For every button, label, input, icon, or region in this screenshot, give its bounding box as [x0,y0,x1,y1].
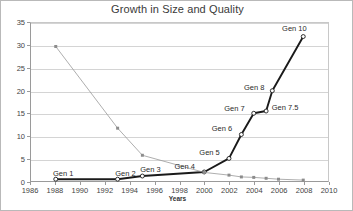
x-axis-tick-mark [105,182,106,185]
data-point-marker [252,176,255,179]
y-axis-tick-label: 35 [1,18,25,27]
y-axis-tick-mark [27,91,30,92]
series-line-generations [56,37,304,180]
plot-area [30,22,329,182]
y-axis-tick-mark [27,22,30,23]
data-point-marker [239,133,243,137]
data-point-label: Gen 4 [174,162,194,171]
x-axis-tick-mark [30,182,31,185]
data-point-marker [141,154,144,157]
data-point-label: Gen 7 [224,104,244,113]
data-point-marker [140,174,144,178]
y-axis-tick-mark [27,159,30,160]
y-axis-tick-label: 20 [1,86,25,95]
y-axis-tick-label: 10 [1,132,25,141]
data-point-marker [54,45,57,48]
y-axis-tick-label: 25 [1,63,25,72]
y-axis-tick-mark [27,136,30,137]
y-axis-tick-label: 30 [1,40,25,49]
chart-frame: Growth in Size and Quality 0510152025303… [0,0,353,211]
data-series-layer [31,23,328,181]
data-point-marker [228,174,231,177]
data-point-marker [227,156,231,160]
data-point-marker [240,175,243,178]
x-axis-tick-mark [204,182,205,185]
x-axis-tick-mark [304,182,305,185]
data-point-marker [252,111,256,115]
data-point-label: Gen 8 [244,83,264,92]
x-axis-tick-label: 2010 [309,186,349,195]
data-point-marker [116,127,119,130]
y-axis-tick-label: 15 [1,109,25,118]
chart-title: Growth in Size and Quality [1,3,353,15]
y-axis-tick-mark [27,68,30,69]
data-point-label: Gen 7.5 [272,103,299,112]
data-point-label: Gen 5 [199,148,219,157]
data-point-marker [277,178,280,181]
x-axis-title: Years [1,195,353,202]
x-axis-tick-mark [254,182,255,185]
x-axis-tick-mark [229,182,230,185]
data-point-label: Gen 1 [53,169,73,178]
data-point-label: Gen 3 [140,165,160,174]
data-point-marker [270,89,274,93]
x-axis-tick-mark [329,182,330,185]
data-point-marker [265,177,268,180]
y-axis-tick-mark [27,113,30,114]
x-axis-tick-mark [80,182,81,185]
x-axis-tick-mark [279,182,280,185]
data-point-label: Gen 6 [212,124,232,133]
data-point-marker [264,109,268,113]
x-axis-tick-mark [55,182,56,185]
y-axis-tick-mark [27,45,30,46]
x-axis-tick-mark [155,182,156,185]
data-point-label: Gen 10 [282,24,307,33]
y-axis-tick-label: 5 [1,155,25,164]
data-point-marker [203,171,206,174]
x-axis-tick-mark [130,182,131,185]
data-point-label: Gen 2 [115,169,135,178]
data-point-marker [301,35,305,39]
x-axis-tick-mark [180,182,181,185]
